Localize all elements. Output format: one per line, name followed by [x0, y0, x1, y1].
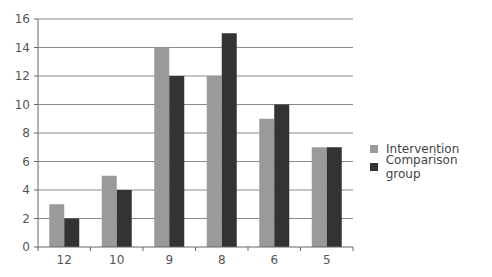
- y-tick-label: 2: [22, 212, 30, 226]
- bar: [169, 76, 184, 247]
- bar: [64, 219, 79, 248]
- bar: [327, 147, 342, 247]
- bar-chart: 0246810121416 12109865: [0, 0, 492, 277]
- y-tick-label: 4: [22, 183, 30, 197]
- bar: [222, 33, 237, 247]
- legend-swatch-icon: [370, 145, 378, 153]
- x-axis-labels: 12109865: [57, 253, 331, 267]
- bar: [49, 204, 64, 247]
- y-tick-label: 8: [22, 126, 30, 140]
- x-tick-label: 6: [270, 253, 278, 267]
- legend-swatch-icon: [370, 163, 378, 171]
- x-tick-label: 9: [165, 253, 173, 267]
- bar: [207, 76, 222, 247]
- y-tick-label: 6: [22, 155, 30, 169]
- bar: [259, 119, 274, 247]
- y-tick-label: 10: [15, 98, 30, 112]
- bars: [49, 33, 342, 247]
- bar: [117, 190, 132, 247]
- y-tick-label: 16: [15, 12, 30, 26]
- y-tick-label: 0: [22, 240, 30, 254]
- bar: [102, 176, 117, 247]
- axes: [34, 19, 353, 251]
- bar: [154, 48, 169, 248]
- bar: [274, 105, 289, 248]
- x-tick-label: 8: [218, 253, 226, 267]
- legend-label: Comparison group: [386, 153, 492, 181]
- x-tick-label: 5: [323, 253, 331, 267]
- y-tick-label: 14: [15, 41, 30, 55]
- bar: [312, 147, 327, 247]
- x-tick-label: 12: [57, 253, 72, 267]
- y-axis-labels: 0246810121416: [15, 12, 30, 254]
- legend: Intervention Comparison group: [370, 140, 492, 176]
- x-tick-label: 10: [109, 253, 124, 267]
- y-tick-label: 12: [15, 69, 30, 83]
- legend-item-comparison: Comparison group: [370, 158, 492, 176]
- gridlines: [38, 19, 353, 219]
